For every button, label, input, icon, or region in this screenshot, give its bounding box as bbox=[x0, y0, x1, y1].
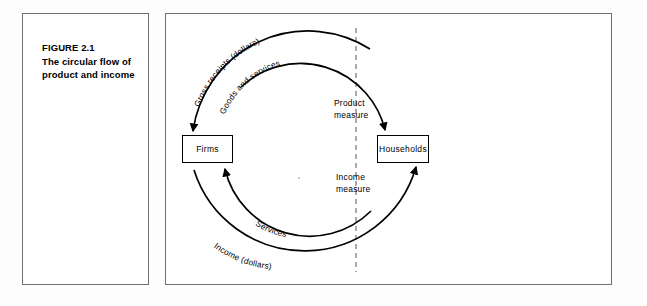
product-measure-line2: measure bbox=[334, 110, 368, 122]
caption-panel: FIGURE 2.1 The circular flow of product … bbox=[22, 13, 149, 285]
product-measure-line1: Product bbox=[334, 98, 368, 110]
figure-page: FIGURE 2.1 The circular flow of product … bbox=[0, 0, 647, 306]
income-measure-line2: measure bbox=[336, 184, 370, 196]
caption-text: FIGURE 2.1 The circular flow of product … bbox=[42, 41, 146, 82]
figure-number: FIGURE 2.1 bbox=[42, 41, 146, 55]
node-households-label: Households bbox=[379, 144, 427, 154]
annotation-product-measure: Product measure bbox=[334, 98, 368, 121]
node-firms-label: Firms bbox=[196, 144, 219, 154]
node-households[interactable]: Households bbox=[377, 135, 429, 163]
income-measure-line1: Income bbox=[336, 172, 370, 184]
annotation-income-measure: Income measure bbox=[336, 172, 370, 195]
figure-title: The circular flow of product and income bbox=[42, 55, 146, 82]
node-firms[interactable]: Firms bbox=[182, 135, 233, 163]
